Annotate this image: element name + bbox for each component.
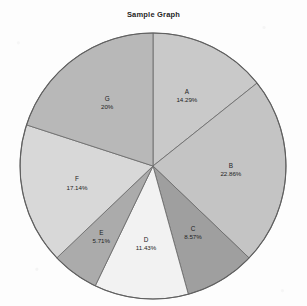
pie-svg	[19, 32, 287, 300]
pie-slice-group	[20, 33, 286, 299]
chart-page: Sample Graph A14.29%B22.86%C8.57%D11.43%…	[0, 0, 307, 306]
chart-title: Sample Graph	[0, 10, 307, 19]
pie-chart: A14.29%B22.86%C8.57%D11.43%E5.71%F17.14%…	[19, 32, 287, 300]
